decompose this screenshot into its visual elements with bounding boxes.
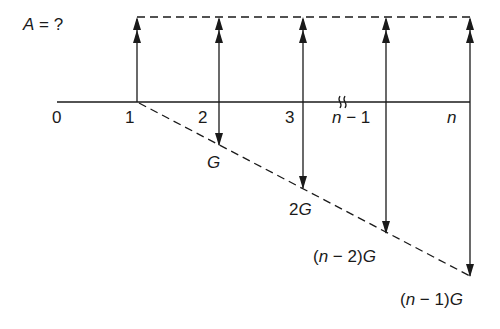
uniform-arrow-period-2 xyxy=(215,17,223,145)
tick-label-n: n xyxy=(447,108,456,127)
gradient-dashed-line xyxy=(139,103,470,276)
uniform-arrow-period-1 xyxy=(133,17,141,102)
uniform-arrow-period-n xyxy=(466,17,474,276)
gradient-arrowhead-period-2 xyxy=(215,133,223,146)
gradient-label-n-minus-1-g: (n − 1)G xyxy=(400,290,463,309)
tick-label-0: 0 xyxy=(52,108,61,127)
cash-flow-diagram: A = ? 0 1 2 3 n − 1 xyxy=(0,0,500,329)
tick-label-2: 2 xyxy=(198,108,207,127)
gradient-label-n-minus-2-g: (n − 2)G xyxy=(313,247,376,266)
uniform-arrow-period-n-minus-1 xyxy=(382,17,390,233)
tick-label-1: 1 xyxy=(125,108,134,127)
gradient-label-2g: 2G xyxy=(289,200,312,219)
annuity-question-label: A = ? xyxy=(22,15,63,34)
gradient-arrowhead-period-3 xyxy=(299,176,307,189)
gradient-label-g: G xyxy=(207,153,220,172)
tick-label-n-minus-1: n − 1 xyxy=(332,108,370,127)
tick-label-3: 3 xyxy=(285,108,294,127)
